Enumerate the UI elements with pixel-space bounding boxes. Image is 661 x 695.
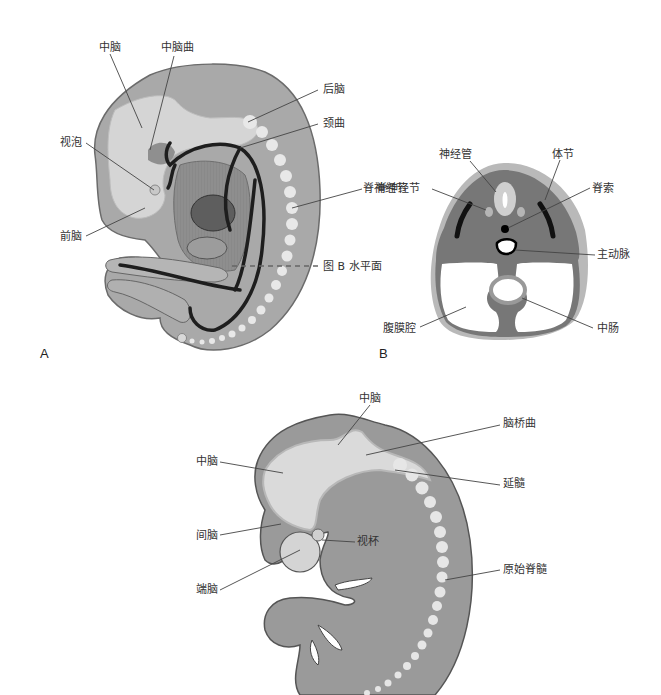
panel-c-embryo bbox=[255, 414, 472, 695]
label-b-neural-tube: 神经管 bbox=[439, 147, 472, 161]
label-c-pontine-flexure: 脑桥曲 bbox=[503, 417, 536, 430]
panel-a-embryo bbox=[95, 64, 321, 350]
label-b-notochord: 脊索 bbox=[592, 181, 614, 195]
label-a-plane-b: 图 B 水平面 bbox=[323, 260, 382, 273]
label-c-primitive-spinal-cord: 原始脊髓 bbox=[503, 562, 547, 576]
label-c-diencephalon: 间脑 bbox=[196, 529, 218, 542]
label-b-midgut: 中肠 bbox=[597, 322, 619, 335]
label-c-midbrain-top: 中脑 bbox=[359, 392, 381, 405]
embryo-a-yolk-stalk bbox=[178, 334, 187, 343]
label-a-midbrain: 中脑 bbox=[99, 41, 121, 54]
section-b-neural-canal bbox=[503, 192, 508, 208]
label-b-spinal-ganglion: 脊神经节 bbox=[376, 181, 420, 195]
label-b-aorta: 主动脉 bbox=[597, 247, 630, 261]
label-c-telencephalon: 端脑 bbox=[196, 583, 218, 596]
panel-b-letter: B bbox=[379, 346, 388, 361]
label-b-somite: 体节 bbox=[552, 147, 574, 161]
embryo-a-optic-vesicle bbox=[150, 185, 160, 195]
section-b-midgut bbox=[491, 277, 525, 303]
label-a-cervical-flexure: 颈曲 bbox=[323, 117, 345, 130]
panel-a-letter: A bbox=[40, 346, 49, 361]
label-a-midbrain-flexure: 中脑曲 bbox=[161, 41, 194, 54]
section-b-notochord bbox=[501, 225, 509, 233]
label-c-optic-cup: 视杯 bbox=[357, 534, 379, 548]
panel-b-cross-section bbox=[431, 163, 588, 340]
section-b-ganglion-right bbox=[517, 207, 525, 217]
label-c-midbrain-left: 中脑 bbox=[196, 455, 218, 468]
section-b-ganglion-left bbox=[485, 207, 493, 217]
label-c-medulla: 延髓 bbox=[503, 477, 525, 490]
embryo-a-liver bbox=[187, 237, 227, 259]
embryo-c-optic-cup bbox=[312, 529, 324, 541]
embryo-diagram: 中脑 中脑曲 后脑 颈曲 视泡 前脑 脊神经节 图 B 水平面 A 神经管 体节… bbox=[0, 0, 661, 695]
label-a-hindbrain: 后脑 bbox=[323, 83, 345, 96]
label-b-peritoneal-cavity: 腹膜腔 bbox=[383, 321, 416, 335]
section-b-aorta bbox=[497, 239, 516, 254]
label-a-forebrain: 前脑 bbox=[60, 229, 82, 243]
label-a-optic-vesicle: 视泡 bbox=[60, 135, 82, 149]
